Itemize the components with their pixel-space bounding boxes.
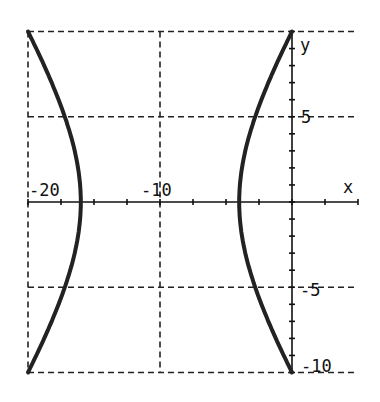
y-tick-label-5: 5 [301,107,311,127]
x-axis-label: x [343,177,353,197]
chart-background [0,0,380,402]
x-tick-label-neg20: -20 [29,180,60,200]
y-tick-label-neg5: -5 [300,280,320,300]
hyperbola-chart: -20 -10 5 -5 -10 x y [0,0,380,402]
x-tick-label-neg10: -10 [141,180,172,200]
y-axis-label: y [300,35,310,55]
y-tick-label-neg10: -10 [301,356,332,376]
